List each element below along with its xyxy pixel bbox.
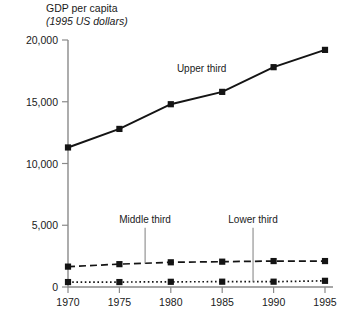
chart-units-subtitle: (1995 US dollars)	[46, 15, 128, 27]
x-tick-label: 1990	[262, 296, 286, 308]
data-point-marker	[168, 101, 174, 107]
data-point-marker	[116, 261, 122, 267]
x-tick-label: 1995	[313, 296, 337, 308]
x-axis-ticks: 197019751980198519901995	[56, 287, 337, 308]
y-tick-label: 20,000	[26, 34, 58, 46]
x-tick-label: 1980	[159, 296, 183, 308]
chart-title-group: GDP per capita (1995 US dollars)	[46, 2, 128, 27]
y-tick-label: 0	[52, 281, 58, 293]
series-line-lower-third	[68, 281, 325, 282]
data-point-marker	[65, 144, 71, 150]
data-point-marker	[65, 264, 71, 270]
x-tick-label: 1985	[211, 296, 235, 308]
series-line-middle-third	[68, 261, 325, 267]
data-point-marker	[322, 278, 328, 284]
data-point-marker	[219, 89, 225, 95]
data-point-marker	[271, 258, 277, 264]
data-point-marker	[219, 259, 225, 265]
data-point-marker	[219, 279, 225, 285]
page-title: GDP per capita	[46, 2, 118, 14]
data-point-marker	[116, 126, 122, 132]
data-point-marker	[65, 279, 71, 285]
chart-container: GDP per capita (1995 US dollars) 05,0001…	[0, 0, 349, 309]
annotation-label-middle-third: Middle third	[119, 214, 171, 225]
y-axis-ticks: 05,00010,00015,00020,000	[26, 34, 68, 293]
gdp-per-capita-line-chart: GDP per capita (1995 US dollars) 05,0001…	[0, 0, 349, 309]
data-point-marker	[168, 259, 174, 265]
annotation-label-lower-third: Lower third	[228, 214, 277, 225]
data-point-marker	[271, 279, 277, 285]
data-point-marker	[168, 279, 174, 285]
y-tick-label: 5,000	[32, 219, 58, 231]
y-tick-label: 15,000	[26, 96, 58, 108]
x-tick-label: 1970	[56, 296, 80, 308]
data-point-marker	[271, 64, 277, 70]
annotations-group: Upper thirdMiddle thirdLower third	[119, 63, 278, 282]
axis-lines	[68, 40, 333, 287]
data-series-group	[65, 47, 328, 285]
data-point-marker	[322, 258, 328, 264]
data-point-marker	[322, 47, 328, 53]
data-point-marker	[116, 279, 122, 285]
annotation-label-upper-third: Upper third	[177, 63, 226, 74]
x-tick-label: 1975	[108, 296, 132, 308]
y-tick-label: 10,000	[26, 158, 58, 170]
